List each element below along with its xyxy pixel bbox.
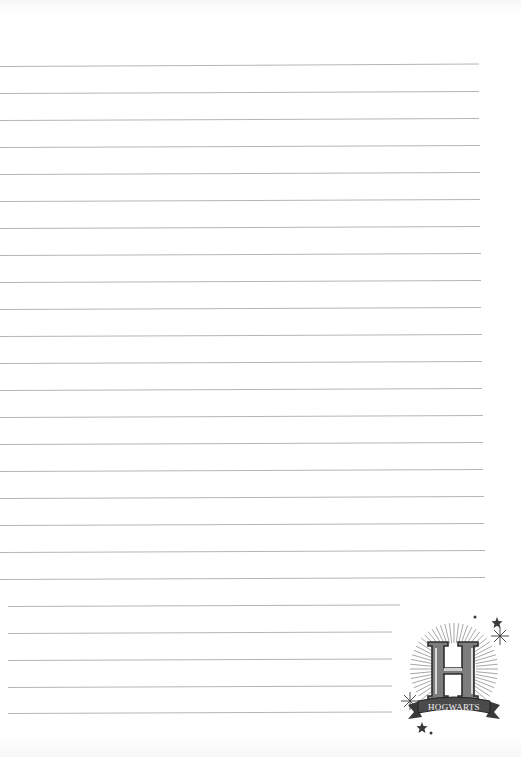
ruled-line (0, 307, 481, 310)
crest-banner-text: HOGWARTS (428, 702, 480, 712)
ruled-line (8, 604, 400, 607)
ruled-line (8, 631, 392, 634)
ruled-line (0, 172, 480, 175)
ruled-line (8, 711, 392, 714)
ruled-line (0, 91, 479, 94)
ruled-line (0, 199, 480, 202)
ruled-line (0, 523, 484, 526)
ruled-line (0, 253, 481, 256)
ruled-line (0, 469, 483, 472)
ruled-line (0, 577, 485, 580)
ruled-line (0, 415, 483, 418)
crest-banner: HOGWARTS (408, 697, 500, 719)
ruled-line (0, 63, 479, 67)
ruled-line (0, 280, 481, 283)
ruled-line (0, 442, 483, 445)
ruled-line (0, 334, 482, 337)
ruled-line (8, 658, 392, 661)
crest-letter-h (428, 642, 478, 700)
ruled-line (8, 685, 392, 688)
notebook-page: HOGWARTS (0, 0, 521, 757)
ruled-line (0, 145, 480, 148)
hogwarts-crest-icon: HOGWARTS (398, 605, 510, 750)
ruled-line (0, 226, 480, 229)
ruled-line (0, 118, 479, 121)
ruled-line (0, 388, 482, 391)
ruled-line (0, 496, 484, 499)
ruled-line (0, 550, 485, 553)
ruled-line (0, 361, 482, 364)
